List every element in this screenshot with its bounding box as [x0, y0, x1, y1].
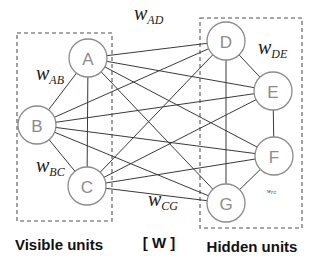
edge-AE: [88, 58, 273, 91]
node-E: E: [254, 72, 292, 110]
weight-label-cg: wCG: [148, 188, 178, 213]
node-label: C: [81, 178, 93, 197]
node-label: D: [220, 33, 232, 52]
node-F: F: [255, 137, 293, 175]
edge-CE: [87, 91, 273, 186]
boltzmann-machine-diagram: ABCDEFG wADwABwDEwBCwCGwFG Visible units…: [0, 0, 323, 264]
edge-BE: [37, 91, 273, 125]
node-D: D: [207, 22, 245, 60]
edge-BD: [37, 41, 226, 125]
node-label: E: [267, 83, 278, 102]
weight-matrix-label: [ W ]: [143, 234, 175, 251]
weight-label-fg: wFG: [267, 188, 276, 195]
weight-label-bc: wBC: [36, 154, 66, 179]
weight-label-ad: wAD: [134, 2, 164, 27]
node-B: B: [18, 106, 56, 144]
edge-CD: [87, 41, 226, 186]
node-label: B: [31, 117, 42, 136]
node-A: A: [69, 39, 107, 77]
edge-AG: [88, 58, 226, 203]
node-label: F: [269, 148, 279, 167]
node-C: C: [68, 167, 106, 205]
weight-label-de: wDE: [258, 36, 288, 61]
node-label: G: [219, 195, 232, 214]
visible-units-caption: Visible units: [15, 236, 103, 253]
node-label: A: [82, 50, 94, 69]
edge-AF: [88, 58, 274, 156]
edge-AD: [88, 41, 226, 58]
hidden-units-caption: Hidden units: [207, 238, 298, 255]
weight-label-ab: wAB: [36, 62, 65, 87]
node-G: G: [207, 184, 245, 222]
edge-CF: [87, 156, 274, 186]
